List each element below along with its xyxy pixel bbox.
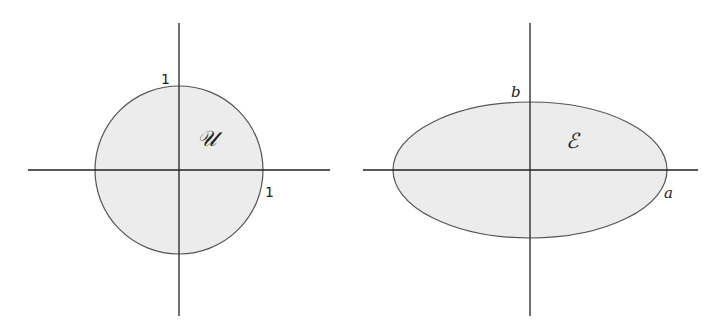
tick-label-top-1: 1 [161,71,170,87]
unit-disk-figure: 1 1 𝒰 [28,23,330,316]
region-label-e: ℰ [566,129,581,153]
ellipse-figure: b a ℰ [363,23,698,316]
tick-label-right-1: 1 [265,184,274,200]
diagram-canvas: 1 1 𝒰 b a ℰ [0,0,717,336]
semi-minor-label-b: b [511,83,521,101]
semi-major-label-a: a [664,184,673,202]
